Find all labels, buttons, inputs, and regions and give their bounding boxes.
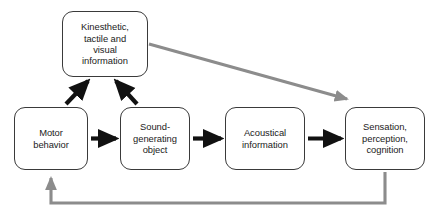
flow-diagram: Kinesthetic, tactile and visual informat… xyxy=(0,0,437,212)
node-kinesthetic-label: Kinesthetic, tactile and visual informat… xyxy=(81,21,129,67)
node-sound-generating-object-label: Sound- generating object xyxy=(133,121,177,155)
node-acoustical-information[interactable]: Acoustical information xyxy=(225,107,305,170)
node-sensation-perception-cognition-label: Sensation, perception, cognition xyxy=(362,121,408,155)
edge-sound-to-kinesthetic xyxy=(116,81,137,104)
edge-sensation-to-motor xyxy=(51,172,385,203)
node-motor-behavior-label: Motor behavior xyxy=(33,127,69,150)
node-sound-generating-object[interactable]: Sound- generating object xyxy=(120,107,190,170)
edge-motor-to-kinesthetic xyxy=(66,81,88,104)
edge-kinesthetic-to-sensation xyxy=(149,44,347,99)
node-sensation-perception-cognition[interactable]: Sensation, perception, cognition xyxy=(345,107,425,170)
node-acoustical-information-label: Acoustical information xyxy=(242,127,288,150)
node-kinesthetic[interactable]: Kinesthetic, tactile and visual informat… xyxy=(62,11,148,77)
node-motor-behavior[interactable]: Motor behavior xyxy=(14,107,88,170)
